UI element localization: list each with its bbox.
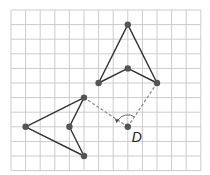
grid: [11, 10, 201, 171]
rotation-angle-arc: [118, 115, 135, 120]
rotation-diagram: D: [0, 0, 210, 175]
vertex-point: [81, 94, 87, 100]
center-point-d: [125, 124, 131, 130]
vertex-point: [81, 153, 87, 159]
vertex-point: [95, 80, 101, 86]
dashed-construction-lines: [84, 83, 157, 127]
vertex-point: [125, 65, 131, 71]
vertex-point: [22, 124, 28, 130]
vertex-point: [125, 21, 131, 27]
center-label-d: D: [132, 129, 142, 145]
vertex-point: [66, 124, 72, 130]
arc-arrow-icon: [115, 119, 119, 123]
vertex-point: [154, 80, 160, 86]
